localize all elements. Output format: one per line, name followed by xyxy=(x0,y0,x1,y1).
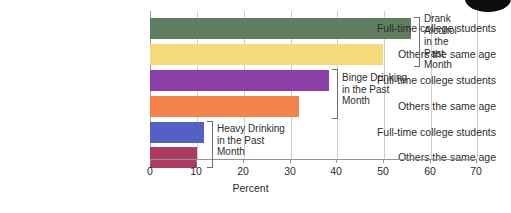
x-tick-label-70: 70 xyxy=(470,165,482,177)
x-tick-60 xyxy=(430,159,431,163)
bar-row-3 xyxy=(150,96,299,117)
bar-row-1 xyxy=(150,44,383,65)
bar-drank-others[interactable] xyxy=(150,44,383,65)
annotation-heavy-line1: Heavy Drinking xyxy=(217,123,295,135)
annotation-heavy-line3: Month xyxy=(217,146,295,158)
x-axis-line xyxy=(150,159,477,160)
category-label-5: Others the same age xyxy=(353,152,501,163)
x-tick-20 xyxy=(243,159,244,163)
annotation-binge-drinking: Binge Drinking in the Past Month xyxy=(342,72,416,107)
x-tick-label-20: 20 xyxy=(237,165,249,177)
annotation-heavy-line2: in the Past xyxy=(217,135,295,147)
bracket-drank-alcohol xyxy=(414,17,420,67)
x-tick-label-50: 50 xyxy=(377,165,389,177)
bracket-binge-drinking xyxy=(332,69,338,119)
category-label-4: Full-time college students xyxy=(353,127,501,138)
bar-binge-college[interactable] xyxy=(150,70,329,91)
annotation-heavy-drinking: Heavy Drinking in the Past Month xyxy=(217,123,295,158)
annotation-drank-alcohol: Drank Alcohol in the Past Month xyxy=(424,13,468,71)
x-tick-label-40: 40 xyxy=(330,165,342,177)
annotation-binge-line3: Month xyxy=(342,95,416,107)
x-tick-0 xyxy=(150,159,151,163)
x-tick-40 xyxy=(336,159,337,163)
x-axis-title: Percent xyxy=(0,182,501,194)
annotation-drank-line1: Drank xyxy=(424,13,468,25)
x-tick-label-30: 30 xyxy=(284,165,296,177)
bracket-heavy-drinking xyxy=(207,121,213,168)
x-tick-30 xyxy=(290,159,291,163)
annotation-drank-line5: Month xyxy=(424,59,468,71)
x-tick-50 xyxy=(383,159,384,163)
x-tick-label-60: 60 xyxy=(424,165,436,177)
bar-row-2 xyxy=(150,70,329,91)
annotation-drank-line3: in the xyxy=(424,36,468,48)
x-tick-label-10: 10 xyxy=(190,165,202,177)
annotation-drank-line4: Past xyxy=(424,48,468,60)
bar-heavy-college[interactable] xyxy=(150,122,204,143)
x-tick-10 xyxy=(196,159,197,163)
x-tick-label-0: 0 xyxy=(147,165,153,177)
annotation-binge-line1: Binge Drinking xyxy=(342,72,416,84)
annotation-binge-line2: in the Past xyxy=(342,84,416,96)
x-tick-70 xyxy=(476,159,477,163)
bar-binge-others[interactable] xyxy=(150,96,299,117)
annotation-drank-line2: Alcohol xyxy=(424,25,468,37)
bar-row-4 xyxy=(150,122,204,143)
